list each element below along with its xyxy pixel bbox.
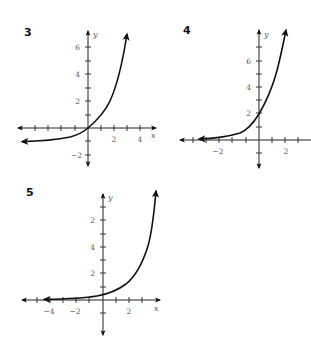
figure-number: 3 [24,26,32,39]
y-tick-label: 6 [75,43,80,52]
exponential-curve [199,30,286,139]
x-tick-label: 4 [138,135,143,144]
x-tick-label: −2 [212,147,223,156]
figure-number: 5 [26,186,34,199]
y-tick-label: 2 [90,269,95,278]
y-tick-label: −2 [71,151,82,160]
graph-4: 4 y 6 4 2 −2 2 [180,24,311,168]
y-tick-label: 2 [246,109,251,118]
y-axis-label: y [263,30,269,39]
figure-number: 4 [183,24,191,37]
figure-canvas: 3 y x 6 4 2 −2 [0,0,311,346]
y-tick-label: 4 [246,83,251,92]
x-tick-label: 2 [112,135,117,144]
y-axis-label: y [92,30,98,39]
x-tick-label: 2 [284,147,289,156]
x-tick-label: 2 [127,307,132,316]
y-tick-label: 4 [90,243,95,252]
x-tick-label: −4 [43,307,54,316]
y-tick-label: 6 [246,57,251,66]
graph-3: 3 y x 6 4 2 −2 [18,26,156,166]
graph-5: 5 y x 2 4 2 −4 −2 2 [22,186,160,335]
y-tick-label: 2 [90,216,95,225]
x-tick-label: −2 [69,307,80,316]
y-tick-label: 4 [75,70,80,79]
y-tick-label: 2 [75,97,80,106]
y-axis-label: y [107,193,113,202]
x-axis-label: x [154,304,159,313]
x-axis-label: x [151,131,156,140]
